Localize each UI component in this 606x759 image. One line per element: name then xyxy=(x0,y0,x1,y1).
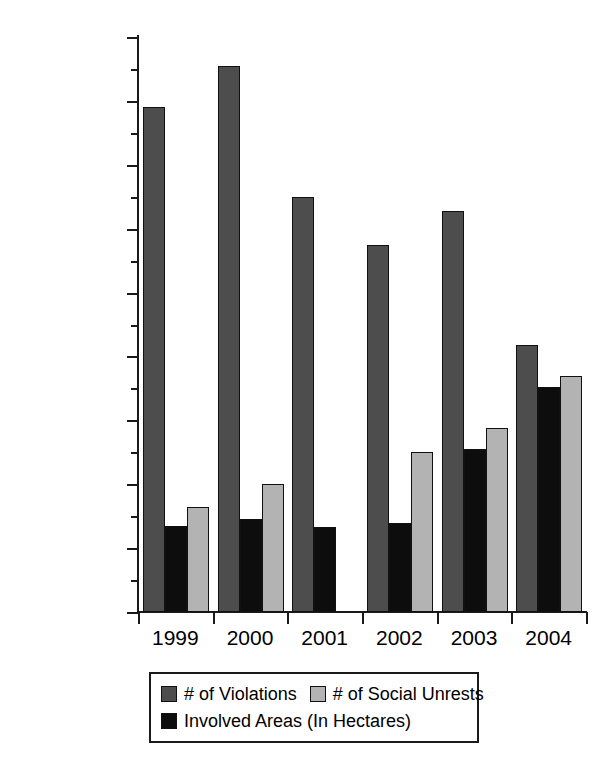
y-axis-tick xyxy=(127,420,138,422)
y-axis-minor-tick xyxy=(131,580,138,582)
bar[interactable] xyxy=(411,452,433,612)
y-axis-minor-tick xyxy=(131,197,138,199)
x-axis-tick xyxy=(287,612,289,624)
bar[interactable] xyxy=(292,197,314,612)
x-axis-tick-label: 2004 xyxy=(525,626,572,650)
plot-area xyxy=(138,37,586,612)
y-axis-tick xyxy=(127,612,138,614)
bar[interactable] xyxy=(314,527,336,612)
x-axis-tick-label: 2000 xyxy=(227,626,274,650)
bar[interactable] xyxy=(538,387,560,612)
legend-entry-involved-areas[interactable]: Involved Areas (In Hectares) xyxy=(161,712,411,730)
y-axis-minor-tick xyxy=(131,133,138,135)
y-axis-tick xyxy=(127,165,138,167)
bar-group xyxy=(138,37,213,612)
bar[interactable] xyxy=(367,245,389,612)
x-axis-tick xyxy=(213,612,215,624)
legend-entry-social-unrests[interactable]: # of Social Unrests xyxy=(310,685,484,703)
y-axis-tick xyxy=(127,356,138,358)
bar[interactable] xyxy=(240,519,262,612)
x-axis-tick xyxy=(511,612,513,624)
bar[interactable] xyxy=(187,507,209,612)
y-axis-tick xyxy=(127,293,138,295)
legend-label-involved-areas: Involved Areas (In Hectares) xyxy=(184,712,411,730)
legend-entry-violations[interactable]: # of Violations xyxy=(161,685,297,703)
bar[interactable] xyxy=(442,211,464,612)
bar[interactable] xyxy=(143,107,165,612)
y-axis-minor-tick xyxy=(131,261,138,263)
bar[interactable] xyxy=(560,376,582,612)
y-axis-minor-tick xyxy=(131,388,138,390)
y-axis-tick xyxy=(127,484,138,486)
y-axis-minor-tick xyxy=(131,516,138,518)
bar-group xyxy=(362,37,437,612)
bar[interactable] xyxy=(262,484,284,612)
x-axis-tick-label: 2003 xyxy=(451,626,498,650)
bar-chart: 020,00040,00060,00080,000100,000120,0001… xyxy=(0,0,606,759)
chart-legend: # of Violations # of Social Unrests Invo… xyxy=(149,672,479,743)
legend-swatch-social-unrests xyxy=(310,686,326,702)
bar[interactable] xyxy=(486,428,508,612)
bar[interactable] xyxy=(464,449,486,612)
y-axis-tick xyxy=(127,548,138,550)
legend-label-social-unrests: # of Social Unrests xyxy=(333,685,484,703)
bar-group xyxy=(437,37,512,612)
y-axis-minor-tick xyxy=(131,69,138,71)
x-axis-tick-label: 1999 xyxy=(152,626,199,650)
y-axis-tick xyxy=(127,101,138,103)
bar-group xyxy=(287,37,362,612)
legend-swatch-violations xyxy=(161,686,177,702)
x-axis-tick xyxy=(586,612,588,624)
legend-swatch-involved-areas xyxy=(161,713,177,729)
y-axis-tick xyxy=(127,37,138,39)
legend-row-top: # of Violations # of Social Unrests xyxy=(161,680,467,707)
y-axis-minor-tick xyxy=(131,325,138,327)
bar[interactable] xyxy=(165,526,187,612)
bar[interactable] xyxy=(516,345,538,612)
bar-group xyxy=(213,37,288,612)
legend-row-bottom: Involved Areas (In Hectares) xyxy=(161,707,467,734)
y-axis-tick xyxy=(127,229,138,231)
x-axis-tick-origin xyxy=(138,612,140,624)
x-axis-tick-label: 2002 xyxy=(376,626,423,650)
bar-group xyxy=(511,37,586,612)
y-axis-minor-tick xyxy=(131,452,138,454)
x-axis-tick xyxy=(437,612,439,624)
bar[interactable] xyxy=(218,66,240,612)
x-axis-tick-label: 2001 xyxy=(301,626,348,650)
legend-label-violations: # of Violations xyxy=(184,685,297,703)
bar[interactable] xyxy=(389,523,411,612)
x-axis-tick xyxy=(362,612,364,624)
